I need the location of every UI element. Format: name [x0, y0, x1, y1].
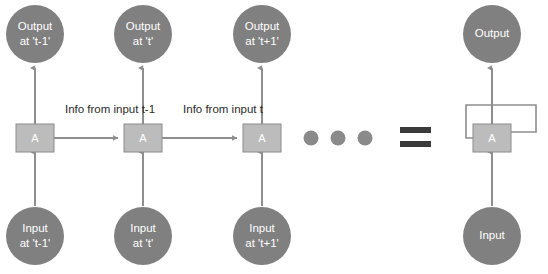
output-node-t-minus-1: [6, 5, 64, 63]
ellipsis-dots: [304, 131, 373, 146]
recurrent-edge-label-t: Info from input t: [183, 103, 264, 115]
equals-sign: [400, 127, 431, 147]
input-node-t-minus-1: [6, 207, 64, 265]
input-node-label-line2-t-minus-1: at 't-1': [20, 237, 51, 249]
timestep-group-t: Output at 't' A Input at 't': [114, 5, 172, 265]
input-node-label-line1-t-minus-1: Input: [22, 222, 48, 234]
rnn-cell-label-t-plus-1: A: [258, 132, 266, 144]
rnn-diagram-canvas: Output at 't-1' A Input at 't-1' Output …: [0, 0, 548, 274]
output-node-label-line1-t: Output: [126, 20, 161, 32]
equals-bar-bottom: [400, 141, 431, 147]
ellipsis-dot-3: [358, 131, 373, 146]
input-node-label-line2-t: at 't': [133, 237, 153, 249]
rnn-diagram: Output at 't-1' A Input at 't-1' Output …: [0, 0, 548, 274]
input-node-t: [114, 207, 172, 265]
folded-rnn-group: Output A Input: [463, 5, 536, 265]
output-node-label-line1-t-minus-1: Output: [18, 20, 53, 32]
folded-input-node-label: Input: [479, 229, 505, 241]
rnn-cell-label-t-minus-1: A: [31, 132, 39, 144]
output-node-t-plus-1: [233, 5, 291, 63]
ellipsis-dot-1: [304, 131, 319, 146]
timestep-group-t-plus-1: Output at 't+1' A Input at 't+1': [233, 5, 291, 265]
output-node-label-line2-t: at 't': [133, 35, 153, 47]
rnn-cell-label-t: A: [139, 132, 147, 144]
output-node-label-line1-t-plus-1: Output: [245, 20, 280, 32]
input-node-label-line1-t: Input: [130, 222, 156, 234]
output-node-label-line2-t-plus-1: at 't+1': [245, 35, 278, 47]
folded-rnn-cell-label: A: [488, 132, 496, 144]
input-node-label-line1-t-plus-1: Input: [249, 222, 275, 234]
output-node-t: [114, 5, 172, 63]
input-node-label-line2-t-plus-1: at 't+1': [245, 237, 278, 249]
input-node-t-plus-1: [233, 207, 291, 265]
ellipsis-dot-2: [331, 131, 346, 146]
equals-bar-top: [400, 127, 431, 133]
output-node-label-line2-t-minus-1: at 't-1': [20, 35, 51, 47]
folded-output-node-label: Output: [475, 27, 510, 39]
recurrent-edge-label-t-minus-1: Info from input t-1: [65, 103, 155, 115]
timestep-group-t-minus-1: Output at 't-1' A Input at 't-1': [6, 5, 64, 265]
